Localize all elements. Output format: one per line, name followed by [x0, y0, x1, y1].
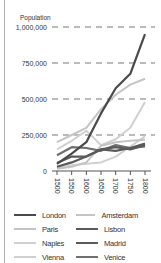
x-tick-label: 1550	[68, 178, 75, 194]
x-tick-label: 1650	[98, 178, 105, 194]
x-axis: 1500155016001650170017501800	[52, 171, 151, 194]
y-tick-label: 250,000	[22, 132, 47, 139]
y-tick-label: 750,000	[22, 60, 47, 67]
y-axis-ticks: 1,000,000750,000500,000250,0000	[16, 24, 47, 175]
legend-label: Amsterdam	[101, 211, 138, 220]
y-axis-label: Population	[20, 14, 51, 22]
x-tick-label: 1600	[83, 178, 90, 194]
x-tick-label: 1750	[127, 178, 134, 194]
legend-item-lisbon: Lisbon	[76, 225, 138, 234]
legend-label: Naples	[42, 239, 64, 248]
y-tick-label: 0	[43, 168, 47, 175]
legend-swatch	[14, 242, 36, 244]
legend-item-naples: Naples	[14, 239, 76, 248]
x-tick-label: 1800	[142, 178, 149, 194]
legend: London Amsterdam Paris Lisbon Naples Mad…	[14, 208, 159, 263]
legend-label: Lisbon	[104, 225, 125, 234]
legend-swatch	[14, 228, 36, 230]
series-lines	[57, 34, 145, 169]
legend-item-vienna: Vienna	[14, 253, 76, 262]
legend-swatch	[14, 214, 36, 217]
legend-label: Paris	[42, 225, 58, 234]
legend-item-madrid: Madrid	[76, 239, 138, 248]
series-line-paris	[57, 79, 145, 142]
legend-item-venice: Venice	[76, 253, 138, 262]
legend-label: Madrid	[104, 239, 126, 248]
legend-swatch	[76, 242, 98, 245]
x-tick-label: 1700	[112, 178, 119, 194]
line-chart: Population 1,000,000750,000500,000250,00…	[0, 0, 161, 205]
legend-label: London	[42, 211, 66, 220]
legend-label: Vienna	[42, 253, 64, 262]
y-tick-label: 500,000	[22, 96, 47, 103]
x-tick-label: 1500	[54, 178, 61, 194]
legend-label: Venice	[104, 253, 125, 262]
legend-swatch	[14, 256, 36, 258]
legend-item-paris: Paris	[14, 225, 76, 234]
legend-item-amsterdam: Amsterdam	[76, 211, 138, 220]
y-tick-label: 1,000,000	[16, 24, 47, 31]
legend-swatch	[76, 228, 98, 231]
legend-swatch	[76, 256, 98, 259]
legend-item-london: London	[14, 211, 76, 220]
legend-swatch	[76, 214, 95, 216]
